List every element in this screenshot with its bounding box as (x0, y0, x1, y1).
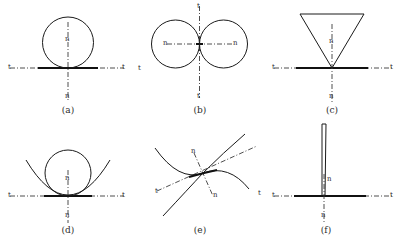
tangent-normal-figure: t t n n (a) t t t n n (b) (0, 0, 399, 239)
label-tangent-bottom-b: t (197, 93, 200, 100)
label-normal-up-c: n (329, 38, 334, 45)
panel-a-graphic (0, 0, 133, 119)
panel-c-graphic (266, 0, 399, 119)
label-normal-down-a: n (65, 93, 70, 100)
circle-b-left (152, 20, 200, 68)
label-normal-up-e: n (191, 148, 196, 155)
label-tangent-right-a: t (122, 64, 125, 71)
label-tangent-left-b: t (138, 65, 141, 72)
label-tangent-left-c: t (272, 64, 275, 71)
panel-f: t t n n (f) (266, 120, 399, 239)
caption-a: (a) (56, 106, 80, 115)
label-normal-up-f: n (327, 176, 332, 183)
label-tangent-left-a: t (8, 64, 11, 71)
caption-b: (b) (188, 106, 212, 115)
panel-b: t t t n n (b) (133, 0, 266, 119)
panel-e: t t n n (e) (133, 120, 266, 239)
label-normal-right-b: n (233, 40, 238, 47)
label-normal-down-f: n (321, 212, 326, 219)
sliver-f-right-edge (325, 124, 326, 196)
label-normal-up-a: n (65, 36, 70, 43)
panel-a: t t n n (a) (0, 0, 133, 119)
label-tangent-right-e: t (258, 190, 261, 197)
panel-f-graphic (266, 120, 399, 239)
label-tangent-right-f: t (390, 192, 393, 199)
label-tangent-top-b: t (197, 3, 200, 10)
label-tangent-right-c: t (390, 64, 393, 71)
panel-b-graphic (133, 0, 266, 119)
panel-e-graphic (133, 120, 266, 239)
label-tangent-left-d: t (8, 192, 11, 199)
curve-e-1 (155, 148, 249, 189)
caption-f: (f) (314, 226, 338, 235)
label-tangent-left-f: t (272, 192, 275, 199)
label-tangent-lower-left-e: t (155, 188, 158, 195)
caption-d: (d) (56, 226, 80, 235)
panel-d: t t n n (d) (0, 120, 133, 239)
panel-c: t t n n (c) (266, 0, 399, 119)
circle-b-right (200, 20, 248, 68)
label-normal-left-b: n (163, 40, 168, 47)
label-normal-down-d: n (65, 212, 70, 219)
caption-c: (c) (320, 106, 344, 115)
label-normal-down-c: n (329, 93, 334, 100)
label-tangent-right-d: t (122, 192, 125, 199)
label-normal-up-d: n (65, 175, 70, 182)
caption-e: (e) (188, 226, 212, 235)
contact-segment-e (189, 170, 217, 177)
label-normal-down-e: n (213, 192, 218, 199)
